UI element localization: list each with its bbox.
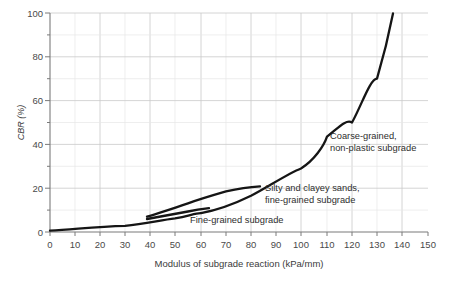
y-tick-label-20: 20 <box>32 183 43 194</box>
x-tick-label-80: 80 <box>246 239 257 250</box>
y-axis-ticks <box>45 13 50 232</box>
y-tick-label-0: 0 <box>38 227 43 238</box>
annotation-coarse-line1: Coarse-grained, <box>330 131 397 141</box>
x-tick-label-150: 150 <box>420 239 436 250</box>
y-axis-title: CBR (%) <box>16 105 26 141</box>
annotation-silty-line2: fine-grained subgrade <box>265 195 355 205</box>
y-tick-label-60: 60 <box>32 95 43 106</box>
chart-container: 0 20 40 60 80 100 0 10 20 30 40 50 60 70… <box>0 0 449 281</box>
annotation-silty-line1: Silty and clayey sands, <box>265 183 360 193</box>
x-tick-label-40: 40 <box>145 239 156 250</box>
x-tick-label-60: 60 <box>196 239 207 250</box>
x-axis-title: Modulus of subgrade reaction (kPa/mm) <box>155 258 324 269</box>
annotation-coarse-line2: non-plastic subgrade <box>330 143 416 153</box>
y-tick-label-40: 40 <box>32 139 43 150</box>
x-tick-label-0: 0 <box>47 239 52 250</box>
x-tick-label-100: 100 <box>293 239 309 250</box>
x-tick-label-10: 10 <box>70 239 81 250</box>
x-tick-label-120: 120 <box>344 239 360 250</box>
cbr-vs-modulus-chart: 0 20 40 60 80 100 0 10 20 30 40 50 60 70… <box>0 0 449 281</box>
x-tick-label-20: 20 <box>95 239 106 250</box>
x-tick-label-110: 110 <box>319 239 334 250</box>
x-tick-label-90: 90 <box>271 239 282 250</box>
y-tick-label-100: 100 <box>27 8 43 19</box>
x-tick-label-30: 30 <box>120 239 131 250</box>
annotation-fine-line1: Fine-grained subgrade <box>190 215 284 225</box>
x-axis-ticks <box>50 232 428 236</box>
x-tick-label-130: 130 <box>369 239 385 250</box>
annotation-fine-grained: Fine-grained subgrade <box>190 215 284 225</box>
x-tick-label-140: 140 <box>394 239 410 250</box>
y-tick-label-80: 80 <box>32 51 43 62</box>
x-tick-label-70: 70 <box>221 239 232 250</box>
x-tick-label-50: 50 <box>170 239 181 250</box>
